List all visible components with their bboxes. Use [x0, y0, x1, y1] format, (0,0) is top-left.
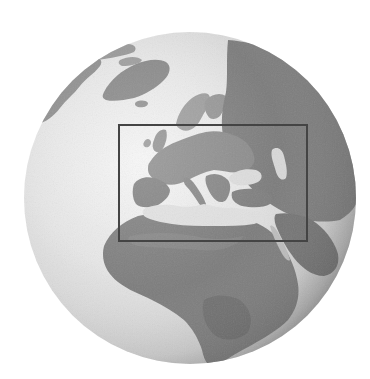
globe-figure: Globe centered on Europe and Africa with…	[0, 0, 370, 379]
globe-graphic	[0, 0, 370, 379]
